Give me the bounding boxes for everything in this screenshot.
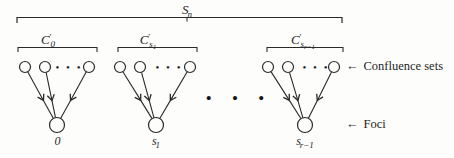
- node-circle: [40, 62, 51, 73]
- focus-nodes: [50, 118, 313, 133]
- groups-ellipsis: • • •: [206, 90, 272, 108]
- node-circle: [84, 62, 95, 73]
- left-arrow-icon: ←: [346, 117, 359, 132]
- label-subscript: s1: [149, 39, 156, 49]
- foci-annotation-text: Foci: [364, 117, 386, 131]
- label-base: C: [41, 32, 50, 47]
- node-circle: [135, 62, 146, 73]
- node-ellipsis: • • •: [55, 60, 82, 74]
- foci-annotation: ←Foci: [346, 117, 386, 132]
- edge-arrow: [46, 72, 55, 117]
- node-circle: [283, 62, 294, 73]
- node-circle: [20, 62, 31, 73]
- left-arrow-icon: ←: [346, 59, 359, 74]
- confluence-sets-annotation-text: Confluence sets: [364, 59, 444, 73]
- edge-arrow: [61, 72, 87, 119]
- node-circle: [115, 62, 126, 73]
- node-circle: [329, 62, 340, 73]
- confluence-set-label-1: C′s1: [140, 30, 157, 54]
- edges: [28, 72, 332, 119]
- focus-label-0: 0: [55, 134, 60, 152]
- edge-arrow: [28, 72, 54, 119]
- label-subscript: n: [188, 9, 193, 19]
- label-base: C: [140, 32, 149, 47]
- outer-set-label: Sn: [182, 0, 192, 24]
- label-subsubscript: r−1: [304, 43, 315, 51]
- label-subscript: 0: [51, 39, 56, 49]
- label-base: 0: [55, 134, 61, 148]
- edge-arrow: [308, 72, 331, 118]
- label-subscript: r−1: [300, 140, 314, 150]
- confluence-sets-annotation: ←Confluence sets: [346, 59, 443, 74]
- confluence-set-label-0: C′0: [41, 30, 55, 54]
- node-ellipsis: • • •: [302, 60, 329, 74]
- node-ellipsis: • • •: [155, 60, 182, 74]
- focus-circle: [149, 118, 164, 133]
- node-circle: [263, 62, 274, 73]
- group-bracket-0: [18, 48, 97, 53]
- focus-label-2: sr−1: [296, 134, 314, 152]
- focus-circle: [50, 118, 65, 133]
- label-base: C: [291, 32, 300, 47]
- node-circle: [185, 62, 196, 73]
- edge-arrow: [160, 72, 187, 119]
- outer-bracket: [17, 18, 342, 24]
- label-subsubscript: 1: [153, 43, 157, 51]
- confluence-set-label-2: C′sr−1: [291, 30, 315, 54]
- diagram-graphics: [0, 0, 454, 158]
- group-bracket-1: [118, 48, 197, 53]
- focus-circle: [298, 118, 313, 133]
- focus-label-1: s1: [152, 134, 160, 152]
- label-subscript: sr−1: [301, 39, 315, 49]
- figure-canvas: Sn C′0 C′s1 C′sr−1 • • • • • • • • • • •…: [0, 0, 454, 158]
- label-subscript: 1: [156, 140, 161, 150]
